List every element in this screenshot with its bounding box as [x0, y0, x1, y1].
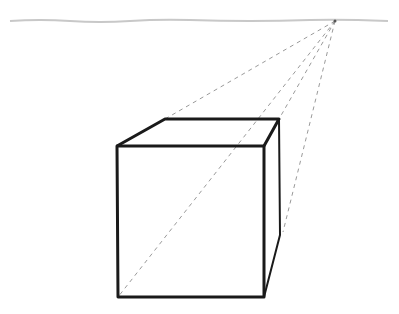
vanishing-point-marker	[334, 20, 337, 23]
vp-line-back-right-bottom	[283, 21, 335, 232]
perspective-cube-drawing	[0, 0, 399, 314]
vp-line-back-left-top	[165, 21, 335, 119]
construction-lines	[118, 21, 335, 297]
vp-line-front-bottom-left	[118, 21, 335, 297]
cube-right-face	[264, 119, 280, 297]
cube-edges	[117, 119, 280, 297]
vp-line-back-right-top	[279, 21, 335, 119]
horizon-line	[10, 20, 388, 22]
cube-front-face	[117, 146, 264, 297]
